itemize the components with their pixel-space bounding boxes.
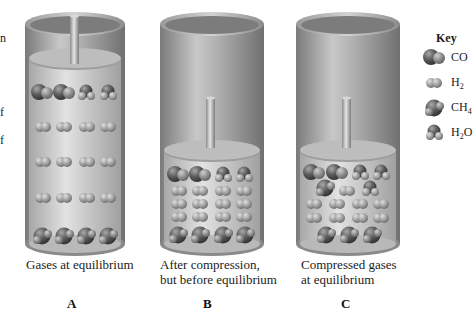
- panel-letter-a: A: [67, 296, 76, 312]
- caption-b-line-2: but before equilibrium: [160, 272, 277, 287]
- cylinder-a: [25, 12, 125, 256]
- key-label-co: CO: [451, 50, 468, 65]
- edge-fragment: f: [0, 105, 4, 120]
- key-label-h2: H2: [451, 75, 464, 91]
- key-label-h2o: H2O: [451, 125, 472, 141]
- panel-letter-c: C: [341, 296, 350, 312]
- caption-a: Gases at equilibrium: [26, 257, 134, 272]
- key-icon-h2o: [426, 125, 443, 141]
- key-icon-h2: [426, 78, 442, 88]
- caption-b-line-1: After compression,: [160, 257, 277, 272]
- edge-fragment: n: [0, 31, 6, 46]
- panel-letter-b: B: [203, 296, 212, 312]
- caption-c-line-1: Compressed gases: [301, 257, 397, 272]
- key-icon-ch4: [425, 100, 444, 117]
- caption-c-line-2: at equilibrium: [301, 272, 397, 287]
- key-label-ch4: CH4: [451, 100, 472, 116]
- key-title: Key: [436, 31, 457, 46]
- caption-c: Compressed gases at equilibrium: [301, 257, 397, 287]
- edge-fragment: f: [0, 133, 4, 148]
- key-icon-co: [423, 49, 445, 65]
- caption-b: After compression, but before equilibriu…: [160, 257, 277, 287]
- caption-a-line-1: Gases at equilibrium: [26, 257, 134, 272]
